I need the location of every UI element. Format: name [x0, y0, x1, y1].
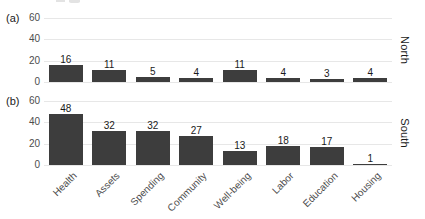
y-tick-label: 40	[10, 116, 40, 128]
bar-assets	[92, 131, 126, 165]
bar-value-label: 18	[258, 135, 308, 146]
bar-value-label: 11	[84, 59, 134, 70]
bar-education	[310, 147, 344, 165]
facet-strip-north: North	[399, 36, 411, 64]
bar-value-label: 13	[215, 140, 265, 151]
bar-spending	[136, 131, 170, 165]
bar-value-label: 5	[128, 66, 178, 77]
y-tick-label: 60	[10, 12, 40, 24]
bar-well-being	[223, 70, 257, 82]
bar-housing	[353, 78, 387, 82]
bar-housing	[353, 164, 387, 165]
bar-labor	[266, 146, 300, 165]
faceted-bar-chart: (a) (b) North South 02040601611541143402…	[0, 0, 425, 219]
y-tick-label: 40	[10, 33, 40, 45]
bar-value-label: 4	[171, 67, 221, 78]
gridline	[44, 82, 392, 83]
bar-value-label: 11	[215, 59, 265, 70]
gridline	[44, 165, 392, 166]
y-tick-label: 0	[10, 76, 40, 88]
bar-value-label: 1	[345, 153, 395, 164]
facet-strip-south: South	[399, 118, 411, 148]
bar-education	[310, 79, 344, 82]
gridline	[44, 39, 392, 40]
gridline	[44, 101, 392, 102]
bar-community	[179, 78, 213, 82]
bar-value-label: 3	[302, 68, 352, 79]
bar-health	[49, 114, 83, 165]
bar-value-label: 16	[41, 54, 91, 65]
bar-value-label: 48	[41, 103, 91, 114]
bar-value-label: 27	[171, 125, 221, 136]
x-axis-category-label: Health	[7, 170, 78, 219]
y-tick-label: 20	[10, 138, 40, 150]
bar-assets	[92, 70, 126, 82]
bar-labor	[266, 78, 300, 82]
bar-value-label: 4	[345, 67, 395, 78]
bar-value-label: 32	[84, 120, 134, 131]
bar-community	[179, 136, 213, 165]
bar-spending	[136, 77, 170, 82]
y-tick-label: 0	[10, 159, 40, 171]
cropped-text-artifact	[69, 0, 80, 3]
cropped-text-artifact	[56, 0, 65, 2]
bar-well-being	[223, 151, 257, 165]
gridline	[44, 18, 392, 19]
y-tick-label: 20	[10, 55, 40, 67]
bar-value-label: 4	[258, 67, 308, 78]
bar-value-label: 17	[302, 136, 352, 147]
bar-health	[49, 65, 83, 82]
bar-value-label: 32	[128, 120, 178, 131]
y-tick-label: 60	[10, 95, 40, 107]
